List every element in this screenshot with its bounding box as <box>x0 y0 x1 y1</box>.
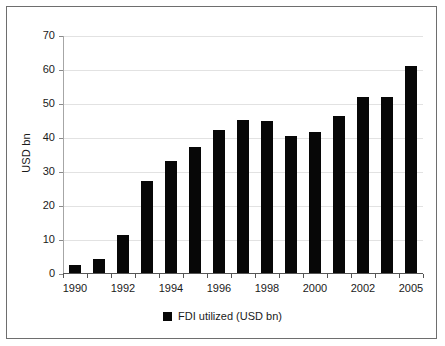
x-tick-label: 1990 <box>55 282 95 294</box>
gridline <box>63 36 423 37</box>
x-tick-mark <box>351 274 352 278</box>
x-tick-label: 2000 <box>295 282 335 294</box>
x-tick-mark <box>87 274 88 278</box>
gridline <box>63 104 423 105</box>
y-tick-label: 30 <box>29 166 55 177</box>
bar <box>285 136 297 274</box>
x-tick-mark <box>255 274 256 278</box>
bar <box>117 235 129 274</box>
x-tick-mark <box>399 274 400 278</box>
bar <box>405 66 417 274</box>
bar <box>165 161 177 274</box>
x-tick-mark <box>159 274 160 278</box>
bar <box>357 97 369 274</box>
x-tick-label: 1996 <box>199 282 239 294</box>
y-tick-label: 70 <box>29 30 55 41</box>
y-axis-title: USD bn <box>20 118 32 188</box>
y-tick-label: 0 <box>29 268 55 279</box>
x-tick-mark <box>423 274 424 278</box>
legend-label: FDI utilized (USD bn) <box>178 310 282 322</box>
bar <box>381 97 393 274</box>
x-tick-mark <box>183 274 184 278</box>
bar <box>261 121 273 274</box>
x-tick-mark <box>303 274 304 278</box>
x-tick-mark <box>279 274 280 278</box>
legend-swatch-icon <box>163 312 172 321</box>
y-axis-line <box>63 36 64 274</box>
bar <box>93 259 105 274</box>
x-tick-label: 2005 <box>391 282 431 294</box>
x-tick-mark <box>63 274 64 278</box>
y-tick-label: 10 <box>29 234 55 245</box>
y-tick-label: 60 <box>29 64 55 75</box>
plot-area <box>63 36 423 274</box>
bar <box>213 130 225 274</box>
bar <box>333 116 345 274</box>
x-axis-line <box>63 273 423 274</box>
x-tick-mark <box>111 274 112 278</box>
y-tick-label: 20 <box>29 200 55 211</box>
chart-legend: FDI utilized (USD bn) <box>7 310 438 322</box>
x-tick-label: 2002 <box>343 282 383 294</box>
bar <box>189 147 201 275</box>
y-tick-label: 50 <box>29 98 55 109</box>
bar <box>309 132 321 274</box>
chart-figure: USD bn 010203040506070 19901992199419961… <box>0 0 445 346</box>
x-tick-label: 1994 <box>151 282 191 294</box>
x-tick-mark <box>375 274 376 278</box>
x-tick-label: 1998 <box>247 282 287 294</box>
x-tick-mark <box>135 274 136 278</box>
x-tick-mark <box>231 274 232 278</box>
bar <box>141 181 153 275</box>
x-tick-mark <box>327 274 328 278</box>
x-tick-label: 1992 <box>103 282 143 294</box>
bar <box>237 120 249 274</box>
chart-frame: USD bn 010203040506070 19901992199419961… <box>6 6 437 339</box>
x-tick-mark <box>207 274 208 278</box>
gridline <box>63 70 423 71</box>
y-tick-label: 40 <box>29 132 55 143</box>
